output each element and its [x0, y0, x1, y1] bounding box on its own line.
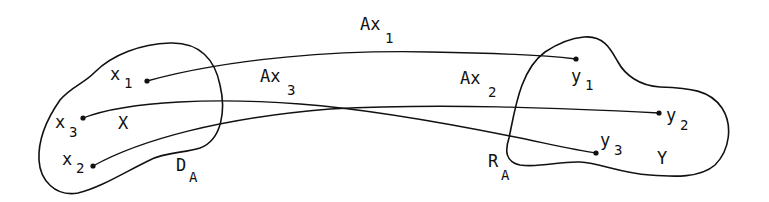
label-ax3-subscript: 3 — [287, 82, 295, 98]
label-range-r: R — [488, 151, 499, 171]
label-y3-subscript: 3 — [614, 142, 622, 158]
label-domain-subscript: A — [189, 169, 198, 185]
label-x1-subscript: 1 — [124, 75, 132, 91]
label-y2: y — [666, 105, 676, 125]
point-y2-marker — [656, 110, 661, 115]
point-y3-marker — [593, 150, 598, 155]
label-x2: x — [62, 149, 72, 169]
label-ax3: Ax — [260, 66, 280, 86]
label-x1: x — [110, 64, 120, 84]
label-x2-subscript: 2 — [76, 160, 84, 176]
label-y1: y — [571, 66, 581, 86]
label-set-y: Y — [657, 148, 667, 168]
label-ax1-subscript: 1 — [385, 30, 393, 46]
label-y3: y — [600, 130, 610, 150]
label-ax2-subscript: 2 — [488, 84, 496, 100]
label-domain-d: D — [176, 155, 186, 175]
mapping-diagram: x 1 x 3 x 2 X D A Ax 1 Ax 3 Ax 2 y 1 y 2… — [0, 0, 769, 202]
point-x1-marker — [144, 78, 149, 83]
label-y1-subscript: 1 — [585, 77, 593, 93]
label-range-subscript: A — [501, 167, 510, 183]
mapping-curve-ax1 — [147, 52, 576, 81]
point-x2-marker — [90, 163, 95, 168]
point-x3-marker — [80, 115, 85, 120]
label-x3-subscript: 3 — [69, 124, 77, 140]
label-ax1: Ax — [360, 14, 380, 34]
label-set-x: X — [118, 113, 129, 133]
label-ax2: Ax — [460, 68, 480, 88]
label-y2-subscript: 2 — [680, 117, 688, 133]
label-x3: x — [55, 112, 65, 132]
point-y1-marker — [573, 56, 578, 61]
